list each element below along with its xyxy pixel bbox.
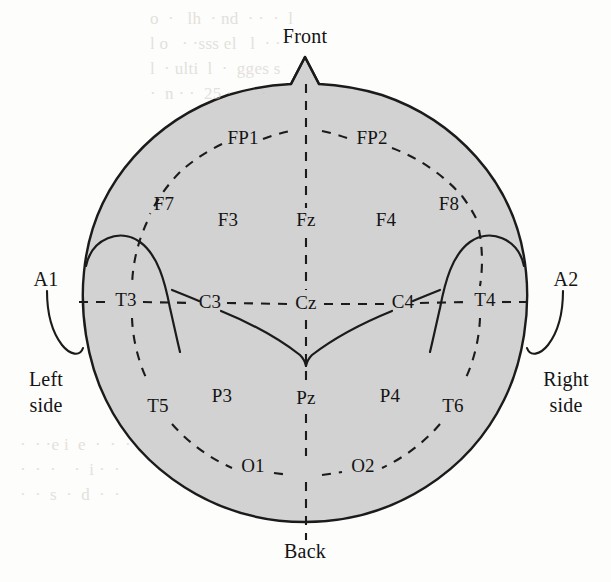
reference-label-A2[interactable]: A2 [554, 268, 579, 290]
electrode-label-F3[interactable]: F3 [218, 209, 238, 230]
electrode-label-FP2[interactable]: FP2 [356, 127, 387, 148]
earlobe-a2-icon [527, 291, 563, 354]
electrode-label-F4[interactable]: F4 [376, 209, 397, 230]
electrode-label-T6[interactable]: T6 [442, 395, 464, 416]
electrode-label-T5[interactable]: T5 [147, 395, 169, 416]
electrode-label-F8[interactable]: F8 [439, 193, 459, 214]
orientation-label-right-line2: side [549, 394, 582, 416]
reference-label-A1[interactable]: A1 [34, 268, 59, 290]
electrode-label-T4[interactable]: T4 [474, 289, 496, 310]
orientation-label-back: Back [284, 540, 326, 562]
electrode-label-C4[interactable]: C4 [392, 291, 415, 312]
electrode-label-FP1[interactable]: FP1 [227, 127, 258, 148]
electrode-label-O1[interactable]: O1 [241, 455, 265, 476]
electrode-label-P4[interactable]: P4 [380, 385, 401, 406]
electrode-label-T3[interactable]: T3 [115, 289, 137, 310]
electrode-label-F7[interactable]: F7 [154, 193, 174, 214]
electrode-label-Pz[interactable]: Pz [296, 387, 315, 408]
eeg-head-diagram: FP1 FP2 F7 F3 Fz F4 F8 T3 C3 Cz C4 T4 T5… [0, 0, 611, 582]
orientation-label-front: Front [283, 25, 328, 47]
orientation-label-left-line1: Left [29, 368, 63, 390]
electrode-label-C3[interactable]: C3 [199, 291, 222, 312]
electrode-label-Cz[interactable]: Cz [295, 292, 317, 313]
orientation-label-right-line1: Right [543, 368, 589, 391]
electrode-label-Fz[interactable]: Fz [296, 209, 315, 230]
earlobe-a1-icon [47, 291, 83, 354]
electrode-label-O2[interactable]: O2 [351, 455, 375, 476]
orientation-label-left-line2: side [29, 394, 62, 416]
electrode-label-P3[interactable]: P3 [212, 385, 232, 406]
figure-canvas: o · lh · nd · · · l l o · ·sss el l · · … [0, 0, 611, 582]
